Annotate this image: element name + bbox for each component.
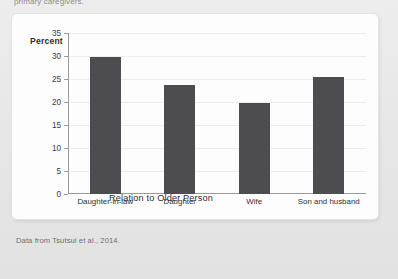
y-tick-label: 0 (56, 190, 61, 199)
y-axis-title: Percent (30, 36, 63, 46)
x-category-label: Wife (246, 197, 262, 206)
y-tick-label: 15 (52, 121, 61, 130)
y-tick-label: 25 (52, 75, 61, 84)
bar-series (68, 33, 366, 194)
page-top-caption: primary caregivers. (14, 0, 84, 8)
y-tick-label: 5 (56, 167, 61, 176)
bar (313, 77, 344, 194)
figure-card: Percent 05101520253035 Daughter-in-lawDa… (12, 14, 378, 219)
x-axis-title: Relation to Older Person (109, 193, 213, 203)
chart-plot-area: 05101520253035 Daughter-in-lawDaughterWi… (68, 33, 366, 194)
bar (90, 57, 121, 194)
y-tick-label: 10 (52, 144, 61, 153)
y-tick-label: 20 (52, 98, 61, 107)
y-tick-mark (64, 194, 68, 195)
source-note: Data from Tsutsui et al., 2014. (16, 236, 120, 245)
y-tick-label: 35 (52, 29, 61, 38)
x-category-label: Son and husband (298, 197, 360, 206)
bar (239, 103, 270, 194)
bar (164, 85, 195, 194)
y-tick-label: 30 (52, 52, 61, 61)
